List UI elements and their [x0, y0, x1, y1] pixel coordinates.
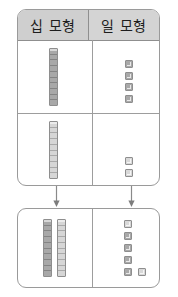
arrow-ones-icon	[127, 186, 136, 208]
unit-cube	[124, 268, 132, 276]
arrow-tens-icon	[52, 186, 61, 208]
header-cell-tens-model: 십 모형	[18, 10, 89, 40]
unit-cube	[125, 60, 133, 68]
cell-row1-tens	[18, 41, 92, 113]
cell-row1-ones	[93, 41, 160, 113]
table-header-row: 십 모형 일 모형	[18, 10, 159, 40]
unit-cube	[124, 256, 132, 264]
unit-cube	[125, 72, 133, 80]
ten-rod	[49, 48, 58, 106]
unit-cube	[125, 157, 133, 165]
unit-cube	[125, 95, 133, 103]
ten-rod	[57, 219, 66, 277]
unit-cube	[124, 220, 132, 228]
addends-table: 십 모형 일 모형	[17, 9, 160, 186]
cell-result-tens	[18, 209, 92, 288]
cell-result-ones	[93, 209, 160, 288]
unit-cube	[124, 232, 132, 240]
cell-row2-tens	[18, 114, 92, 185]
header-label-tens-model: 십 모형	[30, 15, 75, 35]
worksheet-diagram: 십 모형 일 모형	[0, 0, 178, 297]
cell-row2-ones	[93, 114, 160, 185]
unit-cube	[125, 169, 133, 177]
unit-cube	[138, 268, 146, 276]
header-cell-ones-model: 일 모형	[89, 10, 159, 40]
ten-rod	[49, 121, 58, 179]
unit-cube	[125, 83, 133, 91]
header-label-ones-model: 일 모형	[101, 15, 146, 35]
ten-rod	[43, 219, 52, 277]
result-box	[17, 208, 160, 288]
unit-cube	[124, 244, 132, 252]
